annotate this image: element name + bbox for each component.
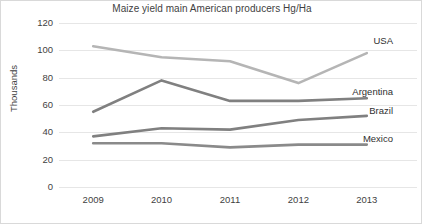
series-line-usa	[93, 46, 367, 83]
line-chart: Maize yield main American producers Hg/H…	[0, 0, 422, 224]
series-label-mexico: Mexico	[301, 133, 393, 144]
series-label-usa: USA	[301, 35, 393, 46]
series-line-mexico	[93, 143, 367, 147]
series-label-brazil: Brazil	[301, 105, 393, 116]
series-label-argentina: Argentina	[301, 86, 393, 97]
